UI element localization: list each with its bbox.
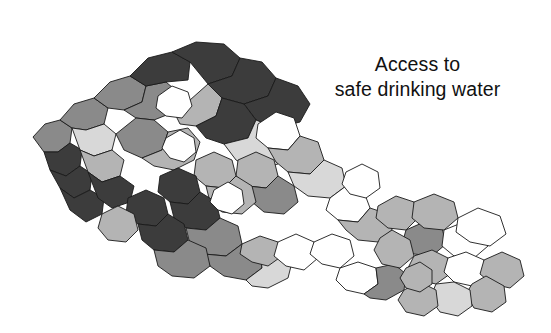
map-title-line-2: safe drinking water xyxy=(335,78,501,100)
map-title-line-1: Access to xyxy=(375,53,460,75)
map-svg xyxy=(0,0,551,333)
map-figure-page: Access tosafe drinking water xyxy=(0,0,551,333)
nepal-choropleth-map xyxy=(0,0,551,333)
map-title: Access tosafe drinking water xyxy=(310,52,525,102)
